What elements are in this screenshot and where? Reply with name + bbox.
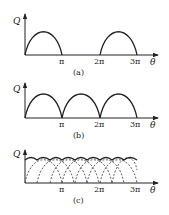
y-axis-label: Q [13,16,21,26]
tick-label-pi: π [59,185,64,194]
x-axis-label: θ [150,120,156,130]
caption: (a) [73,68,84,77]
tick-label-3pi: 3π [130,185,140,194]
figure: Q π 2π 3π θ (a) Q π 2π 3π θ (b) Q [0,0,169,215]
y-axis-label: Q [13,84,21,94]
arch-curve [100,94,137,118]
x-axis-label: θ [150,57,156,67]
arch-dashed [112,158,137,183]
panel-a: Q π 2π 3π θ (a) [13,14,158,77]
caption: (b) [73,131,84,140]
tick-label-pi: π [59,57,64,66]
panel-c: Q π 2π 3π θ (c) [13,149,158,205]
arch-dashed [25,160,62,183]
arch-curve [100,32,137,55]
arch-dashed [75,160,112,183]
arch-dashed [87,160,124,183]
tick-label-2pi: 2π [94,185,104,194]
arch-dashed [37,160,74,183]
tick-label-pi: π [59,120,64,129]
arch-curve [25,94,62,118]
arch-dashed [100,160,137,183]
y-axis-label: Q [13,149,21,159]
arch-dashed [62,160,99,183]
panel-b: Q π 2π 3π θ (b) [13,83,158,140]
tick-label-2pi: 2π [94,57,104,66]
arch-curve [25,32,62,55]
tick-label-3pi: 3π [130,120,140,129]
arch-dashed [50,160,87,183]
tick-label-2pi: 2π [94,120,104,129]
tick-label-3pi: 3π [130,57,140,66]
arch-curve [62,94,100,118]
x-axis-label: θ [150,185,156,195]
caption: (c) [73,196,84,205]
